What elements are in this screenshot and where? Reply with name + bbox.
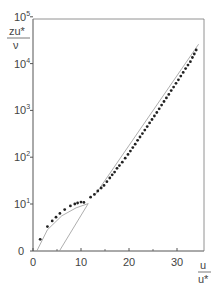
data-point bbox=[172, 86, 175, 89]
data-point bbox=[165, 97, 168, 100]
y-axis-label: zu* ν bbox=[7, 25, 30, 51]
data-point bbox=[167, 93, 170, 96]
plot-frame bbox=[33, 19, 204, 251]
y-axis-label-numerator: zu* bbox=[9, 25, 26, 37]
data-point bbox=[80, 201, 83, 204]
data-point bbox=[55, 216, 58, 219]
data-point bbox=[103, 184, 106, 187]
data-point bbox=[73, 203, 76, 206]
data-point bbox=[51, 220, 54, 223]
data-point bbox=[163, 100, 166, 103]
data-point bbox=[195, 49, 198, 52]
data-point bbox=[170, 89, 173, 92]
data-point bbox=[160, 104, 163, 107]
y-tick-label: 0 bbox=[18, 245, 24, 257]
data-point bbox=[39, 238, 42, 241]
data-point bbox=[96, 190, 99, 193]
data-point bbox=[141, 132, 144, 135]
data-point bbox=[136, 139, 139, 142]
x-axis-label: u u* bbox=[198, 259, 211, 285]
data-point bbox=[69, 205, 72, 208]
data-point bbox=[193, 53, 196, 56]
y-tick-label: 104 bbox=[14, 57, 30, 70]
data-point bbox=[184, 67, 187, 70]
data-point bbox=[124, 157, 127, 160]
data-point bbox=[106, 180, 109, 183]
fit-line bbox=[95, 44, 198, 194]
x-tick-label: 30 bbox=[171, 256, 183, 268]
x-tick-label: 20 bbox=[123, 256, 135, 268]
data-point bbox=[76, 202, 79, 205]
x-axis-label-numerator: u bbox=[200, 259, 206, 271]
data-point bbox=[93, 193, 96, 196]
y-tick-label: 102 bbox=[14, 150, 30, 163]
data-point bbox=[63, 208, 66, 211]
data-point bbox=[131, 146, 134, 149]
data-point bbox=[177, 78, 180, 81]
data-point bbox=[155, 111, 158, 114]
x-axis-label-denominator: u* bbox=[198, 273, 209, 285]
y-tick-label: 101 bbox=[14, 197, 30, 210]
fit-line bbox=[59, 204, 88, 251]
chart: 0102030 0101102103104105 zu* ν u u* bbox=[0, 0, 221, 292]
data-point bbox=[127, 153, 130, 156]
data-point bbox=[100, 187, 103, 190]
y-axis-label-denominator: ν bbox=[13, 39, 19, 51]
data-points bbox=[39, 49, 198, 241]
data-point bbox=[148, 122, 151, 125]
data-point bbox=[189, 60, 192, 63]
fit-line bbox=[37, 204, 88, 251]
x-tick-label: 0 bbox=[30, 256, 36, 268]
data-point bbox=[59, 212, 62, 215]
data-point bbox=[151, 118, 154, 121]
data-point bbox=[46, 225, 49, 228]
data-point bbox=[134, 143, 137, 146]
data-point bbox=[108, 177, 111, 180]
data-point bbox=[153, 115, 156, 118]
data-point bbox=[129, 150, 132, 153]
data-point bbox=[89, 196, 92, 199]
data-point bbox=[179, 75, 182, 78]
fit-lines bbox=[37, 44, 199, 251]
data-point bbox=[83, 201, 86, 204]
data-point bbox=[191, 56, 194, 59]
data-point bbox=[187, 64, 190, 67]
data-point bbox=[111, 173, 114, 176]
data-point bbox=[113, 171, 116, 174]
data-point bbox=[118, 164, 121, 167]
data-point bbox=[146, 125, 149, 128]
data-point bbox=[182, 71, 185, 74]
data-point bbox=[121, 161, 124, 164]
data-point bbox=[158, 107, 161, 110]
y-tick-label: 103 bbox=[14, 103, 30, 116]
data-point bbox=[116, 167, 119, 170]
x-tick-label: 10 bbox=[75, 256, 87, 268]
data-point bbox=[139, 136, 142, 139]
y-tick-label: 105 bbox=[14, 10, 30, 23]
data-point bbox=[175, 82, 178, 85]
data-point bbox=[143, 129, 146, 132]
